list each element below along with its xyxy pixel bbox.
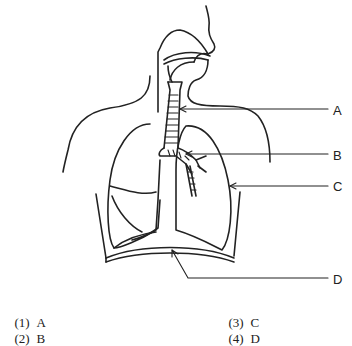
ribcage-left (96, 194, 106, 258)
diaphragm (106, 248, 234, 263)
label-d: D (333, 272, 342, 287)
head-outline (158, 6, 270, 162)
right-lung (176, 126, 231, 250)
choice-2[interactable]: (2)B (8, 315, 45, 346)
choice-number: (2) (15, 331, 37, 346)
choice-4[interactable]: (4)D (222, 315, 260, 346)
respiratory-system-diagram: A B C D (0, 0, 352, 346)
left-shoulder-outline (63, 76, 150, 172)
left-lung (108, 124, 160, 248)
label-a: A (333, 103, 342, 118)
label-c: C (333, 179, 342, 194)
bronchi (159, 148, 206, 196)
choice-answer: B (37, 331, 46, 346)
label-b: B (333, 148, 342, 163)
choice-answer: D (251, 331, 260, 346)
choice-number: (4) (229, 331, 251, 346)
ribcage-right (234, 192, 240, 256)
